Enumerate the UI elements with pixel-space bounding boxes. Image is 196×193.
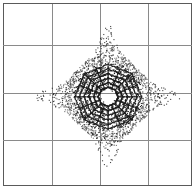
scatter-figure: [0, 0, 196, 193]
plot-area: [3, 3, 192, 186]
grid-lines: [3, 3, 192, 186]
